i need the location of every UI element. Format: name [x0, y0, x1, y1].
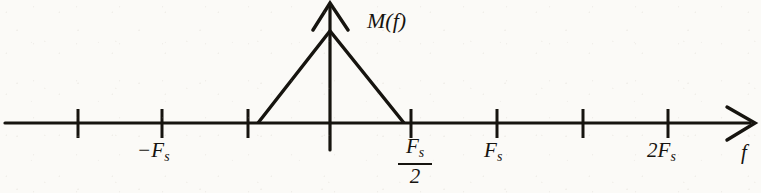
signal-label-mf: M(f) — [367, 10, 406, 32]
axis-label-fs: Fs — [484, 140, 503, 164]
spectrum-figure: M(f) −Fs Fs 2 Fs 2Fs f — [0, 0, 761, 193]
axis-label-two-fs: 2Fs — [647, 140, 676, 164]
fs-over-two-denominator: 2 — [398, 166, 432, 187]
axis-label-negative-fs: −Fs — [137, 140, 170, 164]
axis-label-fs-text: F — [484, 138, 497, 162]
axis-variable-label-f: f — [741, 142, 747, 163]
fs-over-two-numerator-text: F — [406, 134, 419, 158]
axis-label-negative-fs-subscript: s — [164, 149, 169, 164]
fs-over-two-numerator: Fs — [398, 136, 432, 161]
axis-label-fs-over-two: Fs 2 — [398, 136, 432, 187]
axis-label-negative-fs-text: −F — [137, 138, 164, 162]
axis-label-two-fs-text: 2F — [647, 138, 670, 162]
amplitude-axis — [313, 3, 348, 150]
fs-over-two-numerator-subscript: s — [419, 145, 424, 160]
axis-label-two-fs-subscript: s — [671, 149, 676, 164]
axis-label-fs-subscript: s — [497, 149, 502, 164]
frequency-axis — [5, 107, 755, 140]
